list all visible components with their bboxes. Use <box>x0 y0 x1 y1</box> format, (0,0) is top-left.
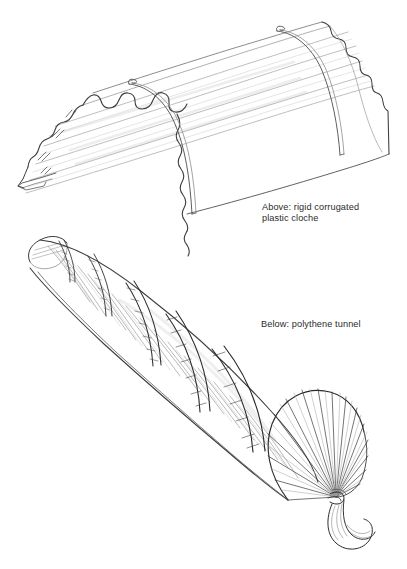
illustration-page: Above: rigid corrugated plastic cloche B… <box>0 0 407 569</box>
cloche-shading <box>62 62 306 164</box>
tunnel-shading <box>120 300 275 440</box>
tunnel-polythene-tail <box>328 500 375 549</box>
cloche-wire-hoop-right <box>276 26 344 155</box>
diagram-canvas <box>0 0 407 569</box>
tunnel-fabric-lines <box>48 246 298 478</box>
tunnel-open-end-arch <box>268 390 364 500</box>
tunnel-gathered-fan-light <box>266 389 368 497</box>
caption-above-cloche: Above: rigid corrugated plastic cloche <box>262 202 402 225</box>
cloche-right-end-profile <box>322 22 389 154</box>
cloche-front-scallop-run <box>176 114 189 256</box>
tunnel-base-line <box>38 272 288 500</box>
caption-below-tunnel: Below: polythene tunnel <box>261 319 403 330</box>
tunnel-fabric-lines-light <box>52 248 284 464</box>
cloche-corrugation-lines <box>26 32 374 193</box>
polythene-tunnel-illustration <box>28 236 375 549</box>
tunnel-dome-gathers <box>32 243 64 259</box>
tunnel-bottom-profile <box>30 268 288 500</box>
